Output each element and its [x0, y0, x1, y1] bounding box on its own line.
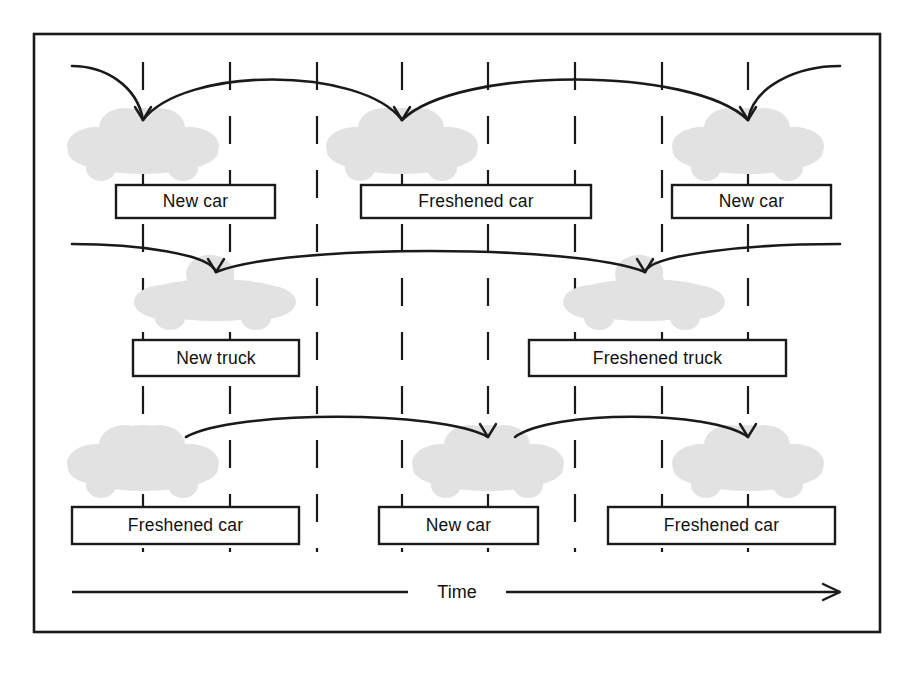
transition-arc-row-trucks-middle-2	[216, 251, 645, 272]
label-box-text: Freshened car	[128, 515, 243, 535]
time-axis: Time	[72, 582, 840, 602]
transition-arc-row-cars-top-2	[143, 80, 402, 121]
truck-silhouette-row-trucks-middle-1	[134, 255, 296, 330]
time-axis-label: Time	[437, 582, 476, 602]
label-box-text: New car	[719, 191, 785, 211]
label-box-row-cars-top-1: New car	[116, 185, 275, 218]
diagram-figure: New carFreshened carNew carNew truckFres…	[0, 0, 914, 676]
timeline-diagram-canvas: New carFreshened carNew carNew truckFres…	[0, 0, 914, 676]
transition-arc-row-trucks-middle-3	[645, 244, 840, 272]
label-box-text: New car	[426, 515, 492, 535]
vehicle-layer	[67, 108, 824, 498]
label-box-row-trucks-middle-1: New truck	[133, 340, 299, 376]
label-box-row-cars-bottom-1: Freshened car	[72, 507, 299, 544]
label-box-text: Freshened car	[664, 515, 779, 535]
label-box-text: New car	[163, 191, 229, 211]
label-box-text: New truck	[176, 348, 256, 368]
label-box-row-cars-bottom-3: Freshened car	[608, 507, 835, 544]
label-box-text: Freshened car	[418, 191, 533, 211]
label-box-text: Freshened truck	[593, 348, 722, 368]
car-silhouette-row-cars-bottom-1	[67, 425, 219, 498]
label-box-row-trucks-middle-2: Freshened truck	[529, 340, 786, 376]
label-box-row-cars-bottom-2: New car	[379, 507, 538, 544]
transition-arc-row-cars-bottom-1	[186, 417, 488, 437]
truck-silhouette-row-trucks-middle-2	[563, 255, 725, 330]
label-box-row-cars-top-3: New car	[672, 185, 831, 218]
label-box-row-cars-top-2: Freshened car	[361, 185, 591, 218]
